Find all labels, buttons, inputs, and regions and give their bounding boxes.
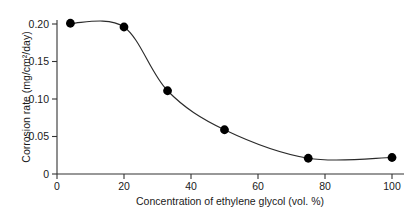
x-tick-label-3: 60 xyxy=(252,180,264,192)
data-point xyxy=(220,125,229,134)
series-markers xyxy=(66,19,396,163)
x-tick-label-5: 100 xyxy=(383,180,401,192)
corrosion-rate-chart: 0 0.05 0.10 0.15 0.20 0 20 40 60 80 100 … xyxy=(0,0,415,212)
x-axis-ticks xyxy=(57,174,392,179)
data-point xyxy=(66,19,75,28)
y-tick-label-0: 0 xyxy=(43,168,49,180)
data-point xyxy=(388,153,397,162)
y-axis-title: Corrosion rate (mg/cm²/day) xyxy=(20,31,32,162)
y-axis-ticks xyxy=(52,24,57,174)
series-line-corrosion-rate xyxy=(70,21,392,160)
x-axis-title: Concentration of ethylene glycol (vol. %… xyxy=(136,195,324,207)
x-tick-label-4: 80 xyxy=(319,180,331,192)
x-tick-label-0: 0 xyxy=(54,180,60,192)
data-point xyxy=(120,23,129,32)
x-tick-label-2: 40 xyxy=(185,180,197,192)
data-point xyxy=(304,154,313,163)
chart-canvas: 0 0.05 0.10 0.15 0.20 0 20 40 60 80 100 … xyxy=(0,0,415,212)
y-tick-label-4: 0.20 xyxy=(29,18,50,30)
x-tick-label-1: 20 xyxy=(118,180,130,192)
data-point xyxy=(163,86,172,95)
